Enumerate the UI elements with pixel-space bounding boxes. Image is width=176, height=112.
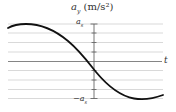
y-axis-label: ay (m/s²)	[71, 1, 113, 14]
chart-plot	[0, 0, 176, 112]
x-axis-label: t	[164, 55, 168, 65]
y-min-label: −as	[73, 94, 87, 105]
y-max-label: as	[76, 17, 83, 28]
